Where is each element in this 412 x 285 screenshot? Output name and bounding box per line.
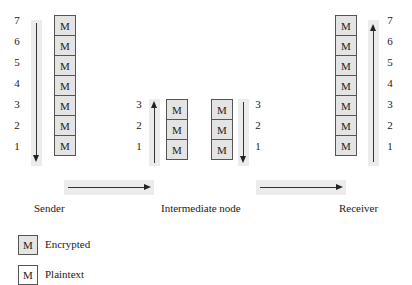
arrow-shaft	[260, 187, 338, 188]
arrow-shaft	[36, 23, 37, 157]
encrypted-message-box: M	[335, 135, 357, 156]
arrow-right-icon	[144, 184, 151, 190]
arrow-right-icon	[336, 184, 343, 190]
sender-message-stack: M M M M M M M	[54, 16, 76, 156]
arrow-down-icon	[240, 156, 246, 163]
receiver-order-arrow	[368, 20, 379, 166]
sender-number: 2	[12, 119, 22, 131]
encrypted-message-box: M	[211, 139, 233, 160]
encrypted-message-box: M	[335, 95, 357, 116]
encrypted-message-box: M	[54, 15, 76, 36]
arrow-shaft	[243, 102, 244, 158]
intermediate-number: 2	[253, 119, 263, 131]
receiver-number: 2	[385, 119, 395, 131]
intermediate-sent-stack: M M M	[211, 100, 233, 160]
sender-number: 1	[12, 140, 22, 152]
intermediate-send-order-arrow	[238, 99, 249, 166]
encrypted-message-box: M	[54, 135, 76, 156]
encrypted-message-box: M	[335, 35, 357, 56]
encrypted-message-box: M	[335, 55, 357, 76]
intermediate-received-stack: M M M	[166, 100, 188, 160]
arrow-shaft	[154, 107, 155, 163]
sender-order-arrow	[31, 20, 42, 166]
receiver-label: Receiver	[339, 202, 378, 214]
sender-number: 7	[12, 14, 22, 26]
receiver-number: 5	[385, 56, 395, 68]
sender-number: 4	[12, 77, 22, 89]
legend-encrypted-label: Encrypted	[45, 238, 90, 250]
intermediate-number: 1	[134, 140, 144, 152]
arrow-shaft	[373, 30, 374, 162]
encrypted-message-box: M	[335, 75, 357, 96]
encrypted-message-box: M	[335, 115, 357, 136]
intermediate-number: 3	[253, 98, 263, 110]
receiver-number: 3	[385, 98, 395, 110]
encrypted-message-box: M	[166, 99, 188, 120]
intermediate-receive-order-arrow	[149, 99, 160, 166]
flow-arrow-sender-to-intermediate	[64, 180, 154, 195]
intermediate-node-label: Intermediate node	[161, 202, 241, 214]
legend-encrypted-swatch: M	[18, 235, 38, 255]
encrypted-message-box: M	[54, 75, 76, 96]
sender-label: Sender	[34, 202, 65, 214]
encrypted-message-box: M	[166, 119, 188, 140]
sender-number: 3	[12, 98, 22, 110]
intermediate-number: 1	[253, 140, 263, 152]
encrypted-message-box: M	[54, 35, 76, 56]
arrow-down-icon	[33, 155, 39, 162]
encrypted-message-box: M	[166, 139, 188, 160]
legend-plaintext-label: Plaintext	[45, 268, 84, 280]
encrypted-message-box: M	[54, 55, 76, 76]
arrow-shaft	[68, 187, 146, 188]
intermediate-number: 3	[134, 98, 144, 110]
receiver-number: 4	[385, 77, 395, 89]
flow-arrow-intermediate-to-receiver	[256, 180, 346, 195]
encrypted-message-box: M	[211, 119, 233, 140]
receiver-message-stack: M M M M M M M	[335, 16, 357, 156]
encrypted-message-box: M	[335, 15, 357, 36]
legend-plaintext-swatch: M	[18, 265, 38, 285]
receiver-number: 6	[385, 35, 395, 47]
encrypted-message-box: M	[54, 115, 76, 136]
encrypted-message-box: M	[211, 99, 233, 120]
encrypted-message-box: M	[54, 95, 76, 116]
receiver-number: 7	[385, 14, 395, 26]
intermediate-number: 2	[134, 119, 144, 131]
sender-number: 5	[12, 56, 22, 68]
receiver-number: 1	[385, 140, 395, 152]
sender-number: 6	[12, 35, 22, 47]
